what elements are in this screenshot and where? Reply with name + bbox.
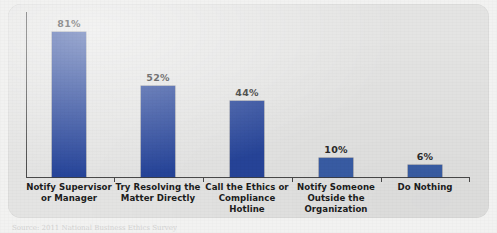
category-label-line: Compliance Hotline [201, 193, 293, 215]
category-label-line: Do Nothing [380, 182, 470, 193]
bar-do-nothing [408, 165, 442, 177]
category-label-line: Outside the [291, 193, 381, 204]
x-axis-line [26, 177, 470, 178]
x-axis-category-label: Notify Someone Outside the Organization [291, 182, 381, 215]
x-axis-category-label: Notify Supervisor or Manager [24, 182, 114, 204]
y-axis-line [26, 12, 27, 177]
bar-notify-supervisor-or-manager [52, 32, 86, 177]
plot-area: 81% 52% 44% 10% 6% Notify Supervisor or … [8, 4, 489, 218]
bar-try-resolving-the-matter-directly [141, 86, 175, 177]
category-label-line: or Manager [24, 193, 114, 204]
bar-value-label: 81% [46, 18, 92, 29]
x-axis-category-label: Do Nothing [380, 182, 470, 193]
category-label-line: Try Resolving the [113, 182, 203, 193]
bar-call-the-ethics-or-compliance-hotline [230, 101, 264, 177]
category-label-line: Call the Ethics or [201, 182, 293, 193]
x-axis-category-label: Call the Ethics or Compliance Hotline [201, 182, 293, 215]
scanned-page: 81% 52% 44% 10% 6% Notify Supervisor or … [0, 0, 497, 233]
category-label-line: Matter Directly [113, 193, 203, 204]
bar-value-label: 44% [224, 87, 270, 98]
chart-panel: 81% 52% 44% 10% 6% Notify Supervisor or … [8, 4, 489, 218]
category-label-line: Organization [291, 204, 381, 215]
bar-value-label: 6% [402, 151, 448, 162]
category-label-line: Notify Someone [291, 182, 381, 193]
x-axis-category-label: Try Resolving the Matter Directly [113, 182, 203, 204]
bar-value-label: 10% [313, 144, 359, 155]
bar-value-label: 52% [135, 72, 181, 83]
bar-notify-someone-outside-the-organization [319, 158, 353, 177]
category-label-line: Notify Supervisor [24, 182, 114, 193]
figure-caption: Source: 2011 National Business Ethics Su… [12, 224, 312, 233]
